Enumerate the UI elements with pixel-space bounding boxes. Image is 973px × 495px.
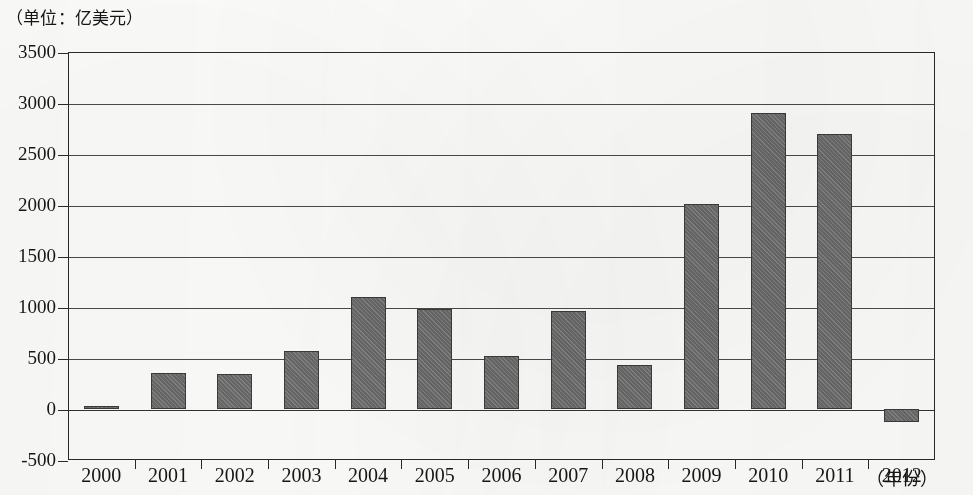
x-axis-label-2007: 2007: [548, 464, 588, 487]
x-axis-label-2001: 2001: [148, 464, 188, 487]
gridline-2000: [69, 206, 934, 207]
x-axis-label-2000: 2000: [81, 464, 121, 487]
y-axis-tick-3500: [58, 53, 68, 54]
x-axis-label-2004: 2004: [348, 464, 388, 487]
y-axis-tick-2500: [58, 155, 68, 156]
y-axis-label-2500: 2500: [0, 143, 56, 165]
y-axis-label-1000: 1000: [0, 296, 56, 318]
y-axis-label-0: 0: [0, 398, 56, 420]
y-axis-label-3000: 3000: [0, 92, 56, 114]
x-axis-label-2010: 2010: [748, 464, 788, 487]
x-axis-label-2006: 2006: [482, 464, 522, 487]
y-axis-label-500: 500: [0, 347, 56, 369]
x-axis-labels: （年份） 20002001200220032004200520062007200…: [0, 464, 973, 495]
y-axis-labels: 3500300025002000150010005000-500: [0, 52, 56, 460]
unit-caption: （单位：亿美元）: [6, 4, 144, 29]
plot-area: [68, 52, 935, 460]
y-axis-tick--500: [58, 461, 68, 462]
y-axis-label-2000: 2000: [0, 194, 56, 216]
y-axis-tick-500: [58, 359, 68, 360]
x-axis-label-2002: 2002: [215, 464, 255, 487]
gridline-500: [69, 359, 934, 360]
x-axis-label-2012: 2012: [882, 464, 922, 487]
gridline-2500: [69, 155, 934, 156]
y-axis-label-1500: 1500: [0, 245, 56, 267]
y-axis-tick-3000: [58, 104, 68, 105]
y-axis-tick-1000: [58, 308, 68, 309]
y-axis-label-3500: 3500: [0, 41, 56, 63]
gridline-1500: [69, 257, 934, 258]
x-axis-label-2003: 2003: [281, 464, 321, 487]
gridline-0: [69, 410, 934, 411]
gridline-3000: [69, 104, 934, 105]
x-axis-label-2008: 2008: [615, 464, 655, 487]
y-axis-tick-2000: [58, 206, 68, 207]
y-axis-tick-0: [58, 410, 68, 411]
y-axis-tick-1500: [58, 257, 68, 258]
x-axis-label-2011: 2011: [815, 464, 854, 487]
chart-page: （单位：亿美元） 3500300025002000150010005000-50…: [0, 0, 973, 495]
x-axis-label-2009: 2009: [682, 464, 722, 487]
x-axis-label-2005: 2005: [415, 464, 455, 487]
gridline-1000: [69, 308, 934, 309]
